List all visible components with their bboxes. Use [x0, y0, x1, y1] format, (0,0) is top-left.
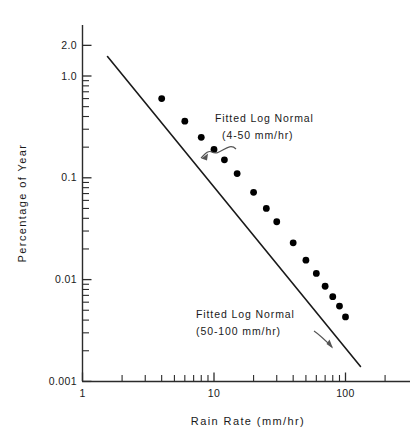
annotation-1-line-2: (4-50 mm/hr) — [222, 129, 293, 141]
annotation-2-line-2: (50-100 mm/hr) — [196, 325, 281, 337]
y-axis-tick-label: 1.0 — [61, 70, 77, 82]
y-axis-tick-label: 2.0 — [61, 39, 77, 51]
data-point-marker — [158, 95, 165, 102]
data-point-marker — [263, 205, 270, 212]
data-point-marker — [303, 257, 310, 264]
data-point-marker — [250, 189, 257, 196]
x-axis-title: Rain Rate (mm/hr) — [191, 415, 305, 427]
data-point-marker — [313, 270, 320, 277]
chart-figure: 2.01.00.10.010.001 110100 Fitted Log Nor… — [0, 0, 416, 440]
y-axis-tick-label: 0.001 — [49, 375, 77, 387]
x-axis-tick-label: 100 — [336, 387, 355, 399]
data-point-marker — [221, 156, 228, 163]
data-point-marker — [181, 118, 188, 125]
data-point-marker — [198, 134, 205, 141]
data-point-marker — [322, 283, 329, 290]
x-axis-tick-label: 1 — [79, 387, 85, 399]
annotation-1-line-1: Fitted Log Normal — [215, 112, 314, 124]
x-axis-tick-label: 10 — [208, 387, 220, 399]
data-point-marker — [273, 218, 280, 225]
figure-background — [0, 0, 416, 440]
data-point-marker — [342, 314, 349, 321]
y-axis-title: Percentage of Year — [16, 144, 28, 263]
y-axis-tick-label: 0.1 — [61, 171, 77, 183]
data-point-marker — [290, 239, 297, 246]
rain-rate-percentage-of-year-chart: 2.01.00.10.010.001 110100 Fitted Log Nor… — [0, 0, 416, 440]
data-point-marker — [329, 293, 336, 300]
annotation-2-line-1: Fitted Log Normal — [196, 308, 295, 320]
data-point-marker — [336, 303, 343, 310]
data-point-marker — [234, 170, 241, 177]
y-axis-tick-label: 0.01 — [55, 273, 77, 285]
